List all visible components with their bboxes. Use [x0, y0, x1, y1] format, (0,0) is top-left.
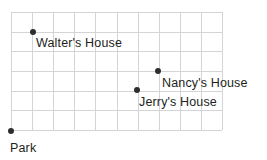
diagram-canvas: Walter's HouseNancy's HouseJerry's House…: [0, 0, 267, 160]
map-label-park: Park: [10, 141, 36, 155]
grid-line-horizontal: [11, 71, 222, 72]
map-point-park[interactable]: [8, 128, 14, 134]
grid-line-vertical: [222, 12, 223, 130]
grid-line-horizontal: [11, 110, 222, 111]
map-label-walters-house: Walter's House: [36, 36, 122, 50]
map-point-nancys-house[interactable]: [155, 68, 161, 74]
map-label-jerrys-house: Jerry's House: [139, 95, 217, 109]
grid-line-horizontal: [11, 130, 222, 131]
map-point-walters-house[interactable]: [30, 29, 36, 35]
grid-line-horizontal: [11, 91, 222, 92]
map-label-nancys-house: Nancy's House: [162, 76, 248, 90]
grid-line-horizontal: [11, 51, 222, 52]
grid-line-horizontal: [11, 12, 222, 13]
grid-line-horizontal: [11, 32, 222, 33]
map-point-jerrys-house[interactable]: [134, 87, 140, 93]
coordinate-grid: [11, 12, 222, 130]
